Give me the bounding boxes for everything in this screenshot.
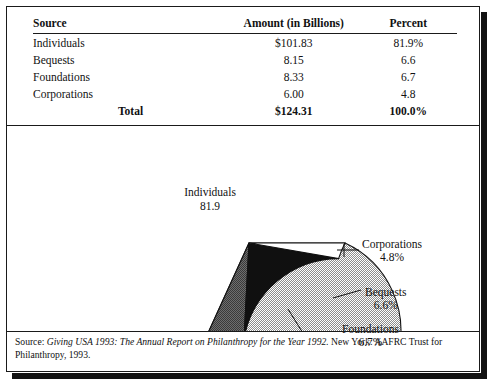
- pie-inner-label-name: Individuals: [184, 186, 236, 198]
- cell-total-label: Total: [33, 102, 228, 119]
- pie-inner-label-value: 81.9: [200, 200, 220, 212]
- source-note-title: Giving USA 1993: The Annual Report on Ph…: [47, 336, 329, 347]
- figure-shadow-bottom: [12, 373, 487, 379]
- table-row: Bequests 8.15 6.6: [33, 51, 457, 68]
- cell-percent: 4.8: [359, 85, 457, 102]
- callout-bequests: Bequests 6.6%: [365, 286, 407, 312]
- callout-bequests-name: Bequests: [365, 286, 407, 299]
- table-row: Individuals $101.83 81.9%: [33, 34, 457, 52]
- figure-shadow-right: [481, 12, 487, 378]
- pie-slice-foundations: [209, 243, 249, 331]
- figure-container: Source Amount (in Billions) Percent Indi…: [6, 6, 480, 372]
- column-header-percent: Percent: [359, 15, 457, 34]
- cell-amount: 6.00: [228, 85, 359, 102]
- cell-total-percent: 100.0%: [359, 102, 457, 119]
- column-header-amount: Amount (in Billions): [228, 15, 359, 34]
- cell-percent: 6.6: [359, 51, 457, 68]
- cell-source: Foundations: [33, 68, 228, 85]
- table-total-row: Total $124.31 100.0%: [33, 102, 457, 119]
- callout-foundations-name: Foundations: [342, 323, 399, 336]
- cell-source: Bequests: [33, 51, 228, 68]
- cell-percent: 81.9%: [359, 34, 457, 52]
- cell-total-amount: $124.31: [228, 102, 359, 119]
- cell-source: Individuals: [33, 34, 228, 52]
- cell-percent: 6.7: [359, 68, 457, 85]
- pie-inner-label: Individuals 81.9: [155, 186, 265, 214]
- philanthropy-table: Source Amount (in Billions) Percent Indi…: [33, 15, 457, 119]
- callout-corporations-value: 4.8%: [362, 251, 422, 264]
- cell-amount: $101.83: [228, 34, 359, 52]
- callout-bequests-value: 6.6%: [365, 299, 407, 312]
- source-note: Source: Giving USA 1993: The Annual Repo…: [15, 336, 471, 361]
- cell-source: Corporations: [33, 85, 228, 102]
- callout-corporations-name: Corporations: [362, 238, 422, 251]
- source-note-prefix: Source:: [15, 336, 47, 347]
- table-header-row: Source Amount (in Billions) Percent: [33, 15, 457, 34]
- callout-corporations: Corporations 4.8%: [362, 238, 422, 264]
- data-table-panel: Source Amount (in Billions) Percent Indi…: [7, 7, 479, 126]
- table-row: Foundations 8.33 6.7: [33, 68, 457, 85]
- cell-amount: 8.33: [228, 68, 359, 85]
- cell-amount: 8.15: [228, 51, 359, 68]
- pie-chart-svg: [7, 126, 481, 331]
- pie-chart-panel: Individuals 81.9 Corporations 4.8% Beque…: [7, 126, 479, 331]
- source-note-rule: [7, 331, 479, 332]
- table-row: Corporations 6.00 4.8: [33, 85, 457, 102]
- column-header-source: Source: [33, 15, 228, 34]
